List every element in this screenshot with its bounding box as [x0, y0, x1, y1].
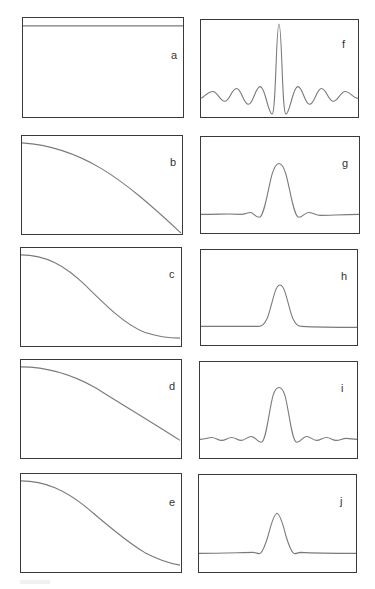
panel-label-h: h: [341, 271, 347, 282]
curve-b: [22, 136, 182, 234]
panel-label-d: d: [169, 381, 175, 392]
curve-i: [200, 362, 357, 458]
curve-j: [199, 475, 356, 572]
curve-h: [201, 250, 357, 345]
panel-e: e: [20, 473, 182, 573]
panel-c: c: [20, 247, 182, 347]
panel-b: b: [21, 135, 183, 235]
panel-g: g: [200, 136, 360, 234]
curve-g: [201, 137, 359, 233]
panel-label-g: g: [342, 158, 348, 169]
panel-label-i: i: [341, 383, 343, 394]
panel-f: f: [200, 19, 359, 118]
curve-f: [201, 20, 358, 117]
panel-label-a: a: [171, 50, 177, 61]
curve-a: [23, 18, 183, 117]
panel-h: h: [200, 249, 358, 346]
panel-j: j: [198, 474, 357, 573]
panel-label-j: j: [340, 496, 342, 507]
panel-d: d: [20, 359, 182, 459]
curve-c: [21, 248, 181, 346]
panel-label-e: e: [169, 497, 175, 508]
curve-d: [21, 360, 181, 458]
panel-a: a: [22, 17, 184, 118]
scan-artifact: [20, 580, 50, 584]
panel-label-b: b: [170, 157, 176, 168]
panel-label-f: f: [342, 39, 345, 50]
panel-label-c: c: [169, 269, 175, 280]
curve-e: [21, 474, 181, 572]
panel-i: i: [199, 361, 358, 459]
